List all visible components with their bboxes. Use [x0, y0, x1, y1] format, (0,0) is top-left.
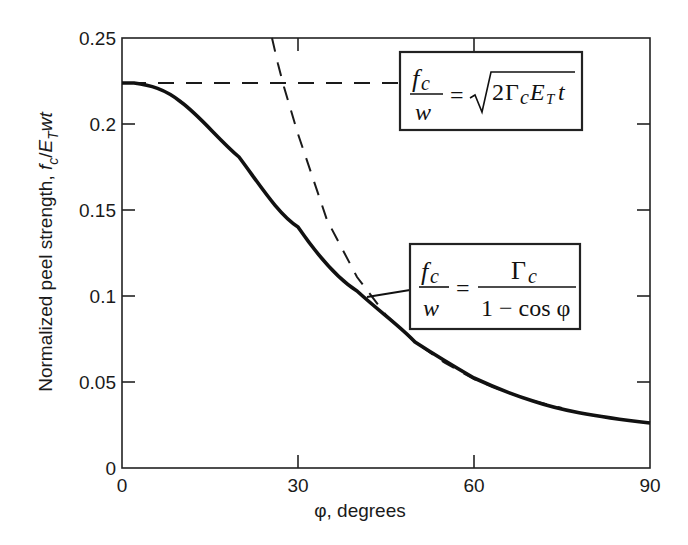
peel-strength-chart: 0 0.05 0.1 0.15 0.2 0.25 0 30 60 90 φ, d… [0, 0, 688, 545]
y-tick-label: 0.1 [90, 286, 116, 307]
svg-text:w: w [415, 99, 431, 125]
y-tick-label: 0.15 [79, 200, 116, 221]
x-tick-label: 30 [287, 475, 308, 496]
lower-formula-box: f c w = Γ c 1 − cos φ [410, 244, 580, 329]
svg-text:1 − cos φ: 1 − cos φ [481, 295, 570, 321]
svg-text:E: E [529, 79, 545, 105]
upper-formula-box: f c w = 2 Γ c E T t [400, 52, 582, 130]
y-tick-label: 0 [105, 458, 116, 479]
x-tick-label: 90 [639, 475, 660, 496]
svg-text:w: w [423, 295, 439, 321]
x-tick-label: 60 [463, 475, 484, 496]
y-axis-label: Normalized peel strength, fc/ETwt [35, 111, 61, 391]
svg-text:Γ: Γ [511, 256, 526, 285]
svg-text:2: 2 [492, 79, 504, 105]
x-tick-label: 0 [117, 475, 128, 496]
svg-text:c: c [528, 265, 537, 287]
y-tick-label: 0.25 [79, 28, 116, 49]
y-tick-label: 0.05 [79, 372, 116, 393]
svg-text:=: = [450, 82, 464, 108]
svg-text:c: c [421, 72, 430, 94]
y-tick-label: 0.2 [90, 114, 116, 135]
svg-text:Γ: Γ [505, 79, 519, 105]
svg-text:c: c [430, 265, 439, 287]
svg-text:c: c [520, 86, 529, 108]
svg-text:=: = [456, 275, 470, 301]
lower-formula-leader [367, 290, 410, 297]
x-axis-label: φ, degrees [314, 500, 406, 521]
